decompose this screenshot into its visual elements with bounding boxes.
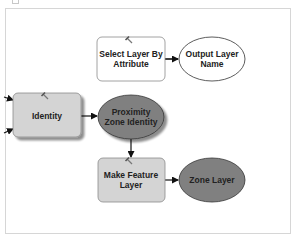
node-label-line-2: Attribute [113,59,149,69]
node-make-feature-layer[interactable]: Make Feature Layer [98,158,165,203]
node-label-line-1: Proximity [112,107,151,117]
node-select-layer-by-attribute[interactable]: Select Layer By Attribute [97,37,165,82]
node-zone-layer[interactable]: Zone Layer [179,158,245,202]
model-diagram: Select Layer By Attribute Output Layer N… [0,0,297,234]
node-label-line-1: Identity [32,111,62,121]
node-label-line-2: Zone Identity [105,117,158,127]
node-label-line-1: Output Layer [186,49,240,59]
connector-input-1-to-identity[interactable] [4,97,13,100]
node-proximity-zone-identity[interactable]: Proximity Zone Identity [98,95,164,139]
node-identity[interactable]: Identity [13,93,81,138]
connector-input-2-to-identity[interactable] [4,129,13,133]
node-label-line-1: Select Layer By [99,49,163,59]
node-label-line-2: Layer [120,180,143,190]
node-label-line-1: Make Feature [104,170,159,180]
node-label-line-1: Zone Layer [189,175,235,185]
node-label-line-2: Name [200,59,223,69]
node-output-layer-name[interactable]: Output Layer Name [179,37,245,81]
